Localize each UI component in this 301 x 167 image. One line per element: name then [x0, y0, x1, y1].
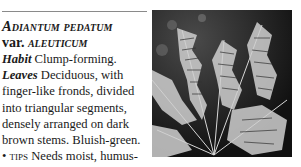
plant-entry: Adiantum pedatum var. aleuticum Habit Cl… [2, 18, 152, 167]
plant-name: Adiantum pedatum [2, 18, 152, 35]
bullet-icon: • [2, 149, 6, 163]
top-rule [2, 11, 147, 12]
plant-variety: var. aleuticum [2, 35, 152, 52]
habit-text: Clump-forming. [35, 52, 117, 66]
variety-prefix: var. [2, 35, 24, 50]
variety-name: aleuticum [28, 35, 87, 50]
habit-label: Habit [2, 52, 31, 66]
leaves-label: Leaves [2, 68, 38, 82]
fern-photo [152, 10, 292, 157]
tips-label: tips [10, 149, 29, 163]
